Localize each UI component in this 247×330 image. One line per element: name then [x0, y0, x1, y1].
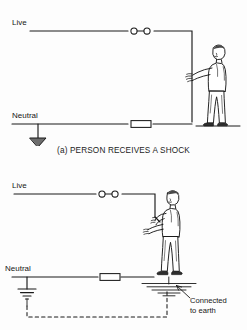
connected-to-earth-note-line2: to earth: [190, 306, 227, 316]
leader-arrow-icon: [177, 286, 191, 299]
plug-connector-icon-b: [99, 191, 118, 197]
earth-triangle-icon: [30, 124, 46, 146]
figure-a-drawing: [0, 0, 247, 146]
dashed-earth-return-path: [27, 289, 167, 317]
figure-b-neutral-label: Neutral: [5, 264, 31, 273]
figure-a-live-label: Live: [12, 18, 27, 27]
figure-b-live-label: Live: [12, 181, 27, 190]
diagram-page: Live Neutral (a) PERSON RECEIVES A SHOCK: [0, 0, 247, 330]
live-wire-right-segment-b: [122, 194, 155, 217]
figure-a-neutral-label: Neutral: [12, 111, 38, 120]
earth-ground-hatch-icon: [142, 277, 196, 296]
hand-fingers: [186, 74, 193, 82]
connected-to-earth-note: Connected to earth: [190, 296, 227, 315]
fuse-icon: [131, 121, 151, 128]
figure-b: Live Neutral Connected to earth (b) PERS…: [0, 165, 247, 330]
standing-person-icon-b: [143, 191, 182, 275]
earth-stacked-icon: [18, 277, 36, 306]
plug-connector-icon: [131, 28, 150, 34]
fuse-icon-b: [100, 274, 120, 281]
figure-a: Live Neutral (a) PERSON RECEIVES A SHOCK: [0, 0, 247, 165]
figure-a-caption: (a) PERSON RECEIVES A SHOCK: [0, 146, 247, 155]
connected-to-earth-note-line1: Connected: [190, 296, 227, 306]
